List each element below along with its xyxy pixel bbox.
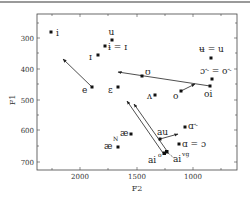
label-u-bar: ʉ = u [199,44,224,54]
marker-eps [117,86,120,89]
label-au: au [157,127,168,137]
arrow-e [63,59,92,87]
marker-i-bar [104,45,107,48]
marker-oR [211,78,214,81]
label-o: o [173,91,178,101]
label-a-eq: ɑ = ɔ [182,139,206,149]
marker-aeN [117,146,120,149]
label-wedge: ʌ [146,91,153,101]
label-e: e [82,85,87,95]
y-tick-500: 500 [21,97,34,105]
label-ae: æ [120,128,128,138]
label-eps: ɛ [108,85,113,95]
x-tick-2000: 2000 [71,173,89,181]
marker-e [91,86,94,89]
x-tick-1500: 1500 [128,173,146,181]
marker-ai-vg [165,150,169,154]
y-tick-700: 700 [21,159,34,167]
label-ai-vg-sup: vg [181,150,189,158]
label-oi: oi [204,89,212,99]
label-ai-o-sup: o [158,151,162,158]
data-markers [50,31,214,156]
marker-I [97,54,100,57]
marker-oi [209,85,212,88]
y-tick-300: 300 [21,35,34,43]
marker-au [159,138,162,141]
arrow-oi [118,72,210,86]
y-tick-400: 400 [21,66,34,74]
label-aeN-sup: N [113,135,118,142]
x-axis-title: F2 [132,184,143,193]
label-oR: ɔ˞ = o˞ [200,66,231,76]
label-i: i [56,28,59,38]
marker-aR [184,126,187,129]
marker-a-eq [178,143,181,146]
y-tick-600: 600 [21,127,34,135]
arrow-o [181,84,195,91]
marker-wedge [154,94,157,97]
label-aR: ɑ˞ [188,121,198,131]
label-I: ɪ [89,52,92,62]
marker-u-bar [210,57,213,60]
label-u: u [109,27,115,37]
label-ai-vg: ai [173,154,181,164]
marker-ae [130,133,133,136]
marker-i [50,31,53,34]
label-ups: ʊ [145,67,151,77]
label-aeN: æ [104,141,112,151]
y-axis-title: F1 [8,95,17,106]
marker-o [180,90,183,93]
label-i-bar: ɨ = ɪ [108,42,127,52]
x-tick-1000: 1000 [184,173,202,181]
label-ai-o: ai [148,155,156,165]
vowel-chart: 300 400 500 600 700 2000 1500 1000 F2 F1 [0,0,250,201]
marker-ups [141,75,144,78]
